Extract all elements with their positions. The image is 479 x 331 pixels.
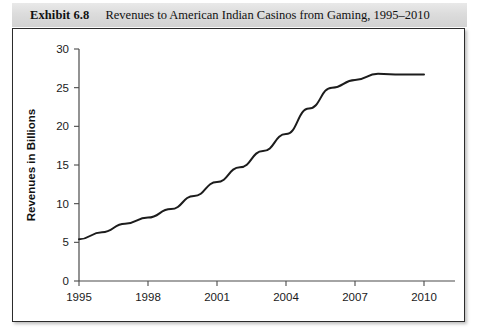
y-axis-tick-label: 20: [56, 120, 69, 132]
revenue-series-line: [79, 74, 424, 239]
x-axis-tick-label: 2001: [204, 291, 230, 303]
x-axis-tick-label: 2010: [411, 291, 437, 303]
y-axis-tick-label: 10: [56, 198, 69, 210]
y-axis-tick-label: 15: [56, 159, 69, 171]
x-axis-tick-group: 199519982001200420072010: [66, 281, 437, 303]
x-axis-tick-label: 2007: [342, 291, 368, 303]
y-axis-tick-label: 5: [63, 236, 69, 248]
y-axis-title: Revenues in Billions: [25, 109, 37, 221]
y-axis-tick-group: 051015202530: [56, 43, 79, 287]
exhibit-number-label: Exhibit 6.8: [30, 8, 89, 23]
chart-plot-frame: 051015202530 199519982001200420072010 Re…: [12, 28, 465, 322]
x-axis-tick-label: 2004: [273, 291, 299, 303]
exhibit-caption-text: Revenues to American Indian Casinos from…: [105, 8, 429, 23]
y-axis-tick-label: 25: [56, 82, 69, 94]
exhibit-figure: Exhibit 6.8 Revenues to American Indian …: [0, 0, 479, 331]
exhibit-caption-bar: Exhibit 6.8 Revenues to American Indian …: [12, 3, 467, 27]
x-axis-tick-label: 1995: [66, 291, 92, 303]
revenue-line-chart: 051015202530 199519982001200420072010 Re…: [13, 29, 464, 321]
y-axis-tick-label: 30: [56, 43, 69, 55]
x-axis-tick-label: 1998: [135, 291, 161, 303]
y-axis-tick-label: 0: [63, 275, 69, 287]
